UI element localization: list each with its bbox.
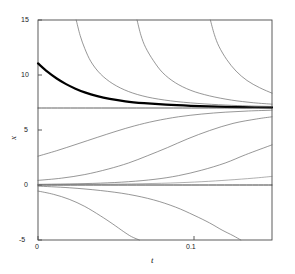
x-axis-title: t: [151, 255, 154, 265]
y-tick-label-10: 10: [21, 71, 29, 78]
y-tick-label-0: 0: [24, 181, 28, 188]
y-tick-label-5: 5: [24, 126, 28, 133]
series-decay-above-1: [76, 20, 272, 106]
series-falling-below-2: [38, 191, 139, 240]
plot-frame-rect: [38, 20, 272, 240]
axis-ticks: [38, 20, 194, 240]
series-rising-sigmoid-2: [38, 117, 272, 181]
data-series-group: [38, 20, 272, 240]
series-decay-above-2: [137, 20, 272, 104]
series-falling-below-1: [38, 186, 241, 240]
x-tick-label-0-1: 0.1: [186, 243, 196, 250]
y-axis-title: x: [8, 136, 18, 140]
figure-container: 15 10 5 0 -5 0 0.1 t x: [0, 0, 295, 274]
x-tick-label-0: 0: [35, 243, 39, 250]
series-decay-above-3: [210, 20, 272, 93]
y-tick-label-15: 15: [21, 16, 29, 23]
chart-plot-area: [0, 0, 295, 274]
series-rising-sigmoid-1: [38, 110, 272, 156]
series-rising-sigmoid-3: [38, 145, 272, 184]
plot-frame: [38, 20, 272, 240]
y-tick-label-minus5: -5: [19, 236, 25, 243]
